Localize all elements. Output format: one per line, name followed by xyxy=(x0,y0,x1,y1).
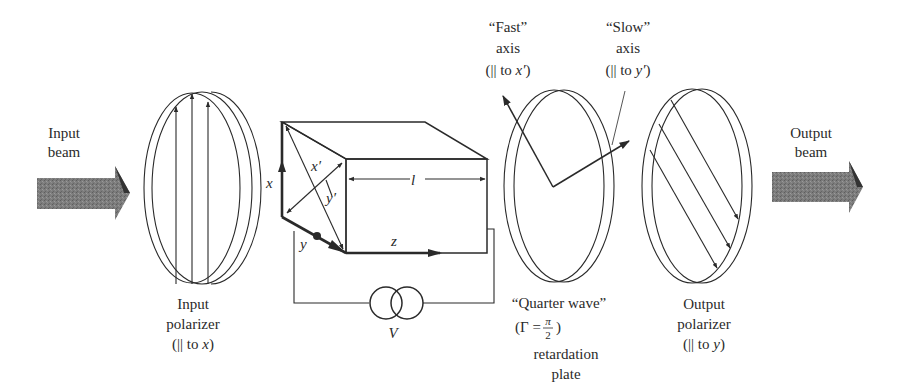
y-prime-label: y′ xyxy=(324,190,337,206)
electro-optic-crystal: l x y z x′ y′ xyxy=(265,122,487,257)
svg-text:(Γ =: (Γ = xyxy=(515,319,541,336)
y-axis-dot xyxy=(313,232,321,240)
slow-axis-arrow xyxy=(553,141,629,187)
ac-voltage-source-icon xyxy=(370,287,423,319)
input-polarizer: Input polarizer (|| to x) xyxy=(144,92,261,353)
input-beam: Input beam xyxy=(37,125,130,220)
output-beam: Output beam xyxy=(772,125,863,213)
polarization-lines-vertical xyxy=(176,94,208,284)
output-beam-label-line1: Output xyxy=(790,125,833,141)
fast-axis-label-line2: axis xyxy=(496,40,520,56)
y-axis-arrow-icon xyxy=(328,240,346,253)
svg-text:π: π xyxy=(545,315,551,327)
x-axis-arrow-icon xyxy=(278,160,286,172)
plate-label: plate xyxy=(551,366,580,382)
x-prime-label: x′ xyxy=(310,158,322,174)
input-beam-label-line2: beam xyxy=(48,144,81,160)
slow-axis-leader-line xyxy=(612,91,625,145)
fast-axis-label-line1: “Fast” xyxy=(489,19,527,35)
slow-axis-label-line1: “Slow” xyxy=(606,19,650,35)
slow-axis-label-line2: axis xyxy=(616,40,640,56)
y-axis-label: y xyxy=(298,236,307,252)
retardation-label: retardation xyxy=(534,346,599,362)
z-axis-arrow-icon xyxy=(428,249,442,257)
output-beam-arrow-icon xyxy=(772,161,863,213)
output-polarizer: Output polarizer (|| to y) xyxy=(642,89,752,353)
output-polarizer-label-line3: (|| to y) xyxy=(683,336,725,353)
quarter-wave-label: “Quarter wave” xyxy=(512,295,607,311)
input-beam-arrow-icon xyxy=(37,166,130,220)
output-polarizer-label-line1: Output xyxy=(683,296,726,312)
input-polarizer-label-line2: polarizer xyxy=(166,316,219,332)
svg-text:): ) xyxy=(556,319,561,336)
output-polarizer-label-line2: polarizer xyxy=(677,316,730,332)
crystal-length-label: l xyxy=(411,172,415,188)
fast-axis-arrow xyxy=(503,96,553,187)
z-axis-label: z xyxy=(390,233,397,249)
output-beam-label-line2: beam xyxy=(795,144,828,160)
input-polarizer-label-line3: (|| to x) xyxy=(172,336,214,353)
input-beam-label-line1: Input xyxy=(48,125,80,141)
x-axis-label: x xyxy=(265,175,273,191)
voltage-label: V xyxy=(388,325,399,341)
electro-optic-modulator-diagram: Input beam Input polarizer (|| to x) xyxy=(0,0,898,385)
gamma-formula: (Γ = π 2 ) xyxy=(515,315,561,341)
svg-text:2: 2 xyxy=(545,329,551,341)
slow-axis-label-line3: (|| to y′) xyxy=(605,62,650,79)
fast-axis-label-line3: (|| to x′) xyxy=(485,62,530,79)
input-polarizer-label-line1: Input xyxy=(177,296,209,312)
quarter-wave-plate: “Fast” axis (|| to x′) “Slow” axis (|| t… xyxy=(485,19,650,382)
